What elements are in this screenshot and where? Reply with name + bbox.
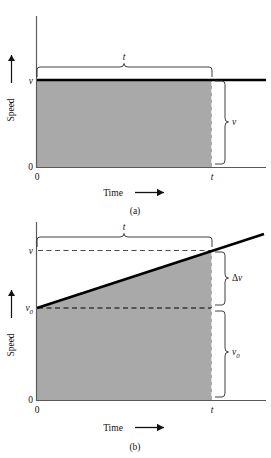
- panel-b-right-brace-v0-label: v0: [232, 347, 240, 359]
- panel-a-caption: (a): [130, 206, 141, 217]
- panel-b-shaded-area: [37, 251, 212, 400]
- panel-a-x-tick-zero: 0: [35, 172, 40, 182]
- panel-a-right-brace-label: v: [232, 117, 237, 127]
- physics-figure: t v v 0 0 t Speed Time: [0, 0, 271, 458]
- panel-b-top-brace-label: t: [123, 222, 126, 232]
- v-subscript: 0: [30, 308, 34, 315]
- panel-a-x-tick-t: t: [211, 172, 214, 182]
- panel-b-y-tick-zero: 0: [28, 395, 33, 405]
- panel-a-y-axis-title-group: Speed: [6, 55, 16, 122]
- panel-a-y-tick-zero: 0: [28, 162, 33, 172]
- panel-b-y-tick-v: v: [29, 246, 34, 256]
- panel-b-y-axis-title-group: Speed: [6, 290, 16, 357]
- panel-b-caption: (b): [129, 442, 140, 453]
- panel-b: t Δv v0 v v0 0 0 t S: [6, 222, 266, 453]
- panel-b-right-brace-v0: [215, 311, 229, 397]
- panel-a-top-brace-label: t: [123, 52, 126, 62]
- panel-b-x-axis-title: Time: [103, 423, 123, 433]
- panel-a-x-axis-title: Time: [103, 188, 123, 198]
- panel-a-right-brace: [215, 81, 229, 164]
- panel-b-y-tick-v0: v0: [25, 303, 33, 315]
- v-subscript: 0: [236, 352, 240, 359]
- panel-b-right-brace-delta-v-label: Δv: [232, 273, 243, 283]
- panel-b-x-axis-title-group: Time: [103, 423, 164, 433]
- panel-a-y-axis-arrow-icon: [8, 55, 15, 83]
- figure-svg: t v v 0 0 t Speed Time: [0, 0, 271, 458]
- panel-b-x-tick-zero: 0: [35, 405, 40, 415]
- panel-b-x-axis-arrow-icon: [135, 424, 164, 431]
- panel-a-x-axis-arrow-icon: [135, 189, 164, 196]
- panel-b-top-brace: [37, 234, 212, 248]
- panel-a-x-axis-title-group: Time: [103, 188, 164, 198]
- v-symbol: v: [238, 273, 243, 283]
- panel-a-y-tick-v: v: [29, 76, 34, 86]
- panel-a: t v v 0 0 t Speed Time: [6, 16, 266, 217]
- panel-b-y-axis-title: Speed: [6, 333, 16, 356]
- panel-b-x-tick-t: t: [211, 405, 214, 415]
- panel-b-right-brace-delta-v: [215, 252, 229, 305]
- panel-a-top-brace: [37, 64, 212, 78]
- panel-a-y-axis-title: Speed: [6, 98, 16, 121]
- panel-b-y-axis-arrow-icon: [8, 290, 15, 318]
- panel-a-shaded-area: [37, 81, 212, 167]
